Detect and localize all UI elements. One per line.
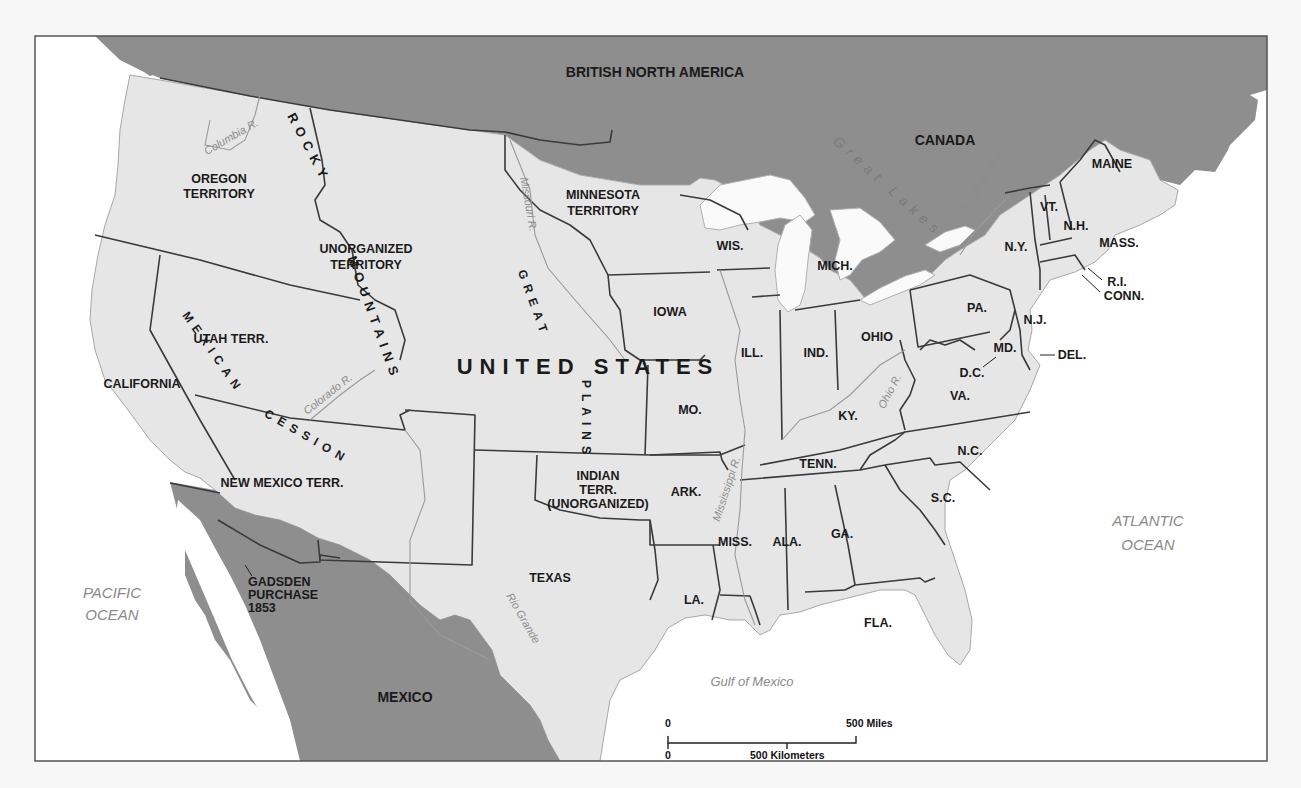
label-dc: D.C. <box>960 366 985 380</box>
label-indian-terr-line3: (UNORGANIZED) <box>547 497 648 511</box>
label-gadsden-line3: 1853 <box>248 601 276 615</box>
label-unorganized-line2: TERRITORY <box>330 258 402 272</box>
label-sc: S.C. <box>931 491 955 505</box>
label-atlantic-line1: ATLANTIC <box>1111 512 1184 529</box>
label-ark: ARK. <box>671 485 702 499</box>
label-ky: KY. <box>838 409 857 423</box>
label-ill: ILL. <box>741 346 763 360</box>
label-nh: N.H. <box>1064 219 1089 233</box>
label-wis: WIS. <box>716 239 743 253</box>
label-gadsden-line2: PURCHASE <box>248 588 318 602</box>
label-mass: MASS. <box>1099 236 1139 250</box>
label-indian-terr-line2: TERR. <box>579 483 617 497</box>
label-ri: R.I. <box>1107 275 1126 289</box>
label-la: LA. <box>684 593 704 607</box>
label-british-north-america: BRITISH NORTH AMERICA <box>566 64 744 80</box>
scale-zero-miles: 0 <box>665 717 671 729</box>
label-mich: MICH. <box>817 259 852 273</box>
label-nj: N.J. <box>1024 313 1047 327</box>
label-tenn: TENN. <box>799 457 837 471</box>
label-minnesota-line1: MINNESOTA <box>566 188 640 202</box>
label-vt: VT. <box>1040 200 1058 214</box>
label-ohio: OHIO <box>861 330 893 344</box>
label-minnesota-line2: TERRITORY <box>567 204 639 218</box>
label-iowa: IOWA <box>653 305 686 319</box>
label-del: DEL. <box>1058 348 1086 362</box>
label-pacific-line1: PACIFIC <box>83 584 141 601</box>
label-pa: PA. <box>967 301 987 315</box>
scale-zero-km: 0 <box>665 749 671 761</box>
label-oregon-line1: OREGON <box>191 172 247 186</box>
label-gulf-of-mexico: Gulf of Mexico <box>710 674 793 689</box>
label-united-states: UNITED STATES <box>457 354 720 379</box>
label-miss: MISS. <box>718 535 752 549</box>
label-va: VA. <box>950 389 970 403</box>
label-fla: FLA. <box>864 616 892 630</box>
label-maine: MAINE <box>1092 157 1132 171</box>
label-ga: GA. <box>831 527 853 541</box>
label-california: CALIFORNIA <box>103 377 180 391</box>
label-ind: IND. <box>804 346 829 360</box>
label-plains: PLAINS <box>579 380 593 460</box>
label-mexico: MEXICO <box>377 689 432 705</box>
label-conn: CONN. <box>1104 289 1144 303</box>
map-canvas: BRITISH NORTH AMERICA CANADA MEXICO UNIT… <box>0 0 1301 788</box>
label-oregon-line2: TERRITORY <box>183 187 255 201</box>
label-canada: CANADA <box>915 132 976 148</box>
historical-us-map-1853: BRITISH NORTH AMERICA CANADA MEXICO UNIT… <box>0 0 1301 788</box>
scale-500-km: 500 Kilometers <box>750 749 825 761</box>
label-atlantic-line2: OCEAN <box>1121 536 1175 553</box>
label-gadsden-line1: GADSDEN <box>248 575 311 589</box>
scale-500-miles: 500 Miles <box>846 717 893 729</box>
label-pacific-line2: OCEAN <box>85 606 139 623</box>
label-indian-terr-line1: INDIAN <box>576 469 619 483</box>
label-nc: N.C. <box>958 444 983 458</box>
label-texas: TEXAS <box>529 571 571 585</box>
label-unorganized-line1: UNORGANIZED <box>319 242 412 256</box>
label-md: MD. <box>994 341 1017 355</box>
label-mo: MO. <box>678 403 702 417</box>
label-ala: ALA. <box>772 535 801 549</box>
label-ny: N.Y. <box>1005 240 1028 254</box>
label-new-mexico-terr: NEW MEXICO TERR. <box>221 476 344 490</box>
